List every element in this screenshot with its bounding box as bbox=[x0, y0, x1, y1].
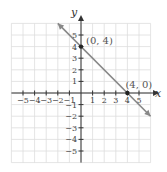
y-tick-label: −4 bbox=[65, 135, 77, 144]
y-tick-label: −1 bbox=[65, 101, 77, 110]
intercept-point bbox=[125, 91, 129, 95]
x-tick-label: −3 bbox=[40, 96, 52, 105]
y-axis-arrow-icon bbox=[78, 15, 84, 21]
point-label: (4, 0) bbox=[125, 79, 152, 90]
x-tick-label: −4 bbox=[29, 96, 41, 105]
y-tick-label: 3 bbox=[72, 54, 77, 63]
x-tick-label: −5 bbox=[17, 96, 29, 105]
coordinate-plane: −5−4−3−2−112345 −5−4−3−2−112345 (0, 4)(4… bbox=[0, 0, 167, 172]
y-axis-label: y bbox=[70, 6, 78, 19]
y-tick-label: 2 bbox=[72, 66, 77, 75]
x-tick-label: −2 bbox=[52, 96, 64, 105]
y-tick-label: −2 bbox=[65, 112, 77, 121]
y-tick-label: 4 bbox=[72, 43, 77, 52]
y-tick-label: −5 bbox=[65, 147, 77, 156]
y-tick-label: 1 bbox=[72, 77, 77, 86]
x-tick-label: 4 bbox=[125, 96, 130, 105]
x-tick-label: 3 bbox=[113, 96, 118, 105]
point-label: (0, 4) bbox=[86, 35, 113, 46]
x-axis-label: x bbox=[155, 87, 162, 100]
x-tick-label: 2 bbox=[102, 96, 107, 105]
x-tick-label: 1 bbox=[90, 96, 95, 105]
intercept-point bbox=[79, 44, 83, 48]
y-tick-label: −3 bbox=[65, 124, 77, 133]
x-tick-labels: −5−4−3−2−112345 bbox=[17, 96, 141, 105]
